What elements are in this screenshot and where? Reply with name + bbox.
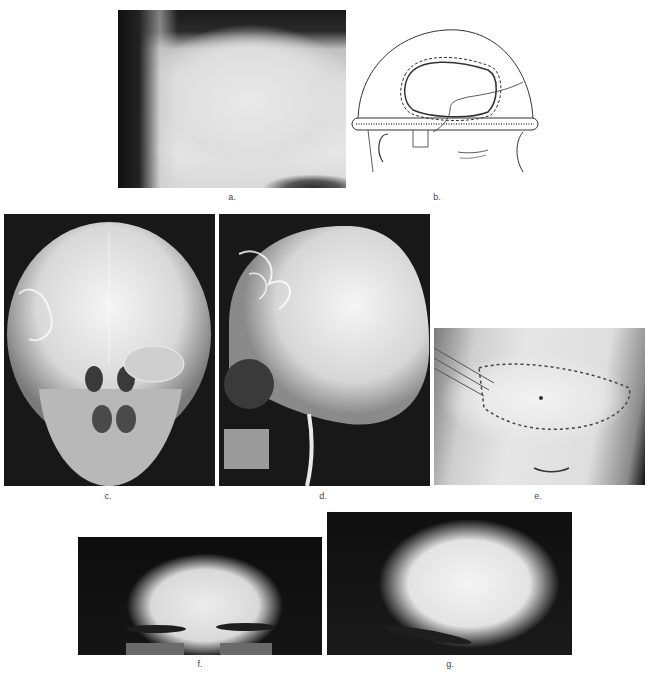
hair-region (118, 10, 178, 188)
panel-e-label: e. (523, 491, 553, 501)
eyebrow-region (236, 162, 346, 188)
left-eyebrow (126, 625, 186, 633)
skull-ap-radiograph (4, 214, 215, 486)
panel-c-label: c. (93, 491, 123, 501)
panel-b-label: b. (422, 192, 452, 202)
panel-g-label: g. (435, 659, 465, 669)
panel-c-ap-xray (4, 214, 215, 486)
panel-a-forehead-photo (118, 10, 346, 188)
eye-censor-bar-right (220, 643, 272, 655)
skull-lateral-radiograph (219, 214, 430, 486)
panel-e-intraop-photo (434, 328, 645, 485)
panel-b-schematic-drawing (348, 22, 543, 182)
panel-g-postop-oblique-photo (327, 512, 572, 655)
panel-a-label: a. (217, 192, 247, 202)
head-diagram (348, 22, 543, 182)
panel-d-lateral-xray (219, 214, 430, 486)
panel-d-label: d. (308, 491, 338, 501)
panel-f-postop-frontal-photo (78, 537, 322, 655)
right-eyebrow (216, 623, 276, 631)
eye-censor-bar-left (126, 643, 184, 655)
eyebrow (382, 622, 472, 647)
sutured-flap (434, 328, 645, 485)
panel-f-label: f. (185, 659, 215, 669)
